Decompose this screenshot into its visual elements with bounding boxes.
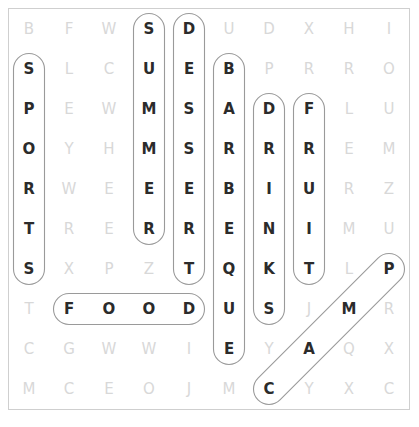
grid-cell[interactable]: U [369, 209, 409, 249]
grid-cell[interactable]: Y [249, 329, 289, 369]
grid-cell[interactable]: X [369, 329, 409, 369]
grid-cell[interactable]: W [49, 169, 89, 209]
grid-cell-found[interactable]: R [209, 129, 249, 169]
grid-cell-found[interactable]: O [89, 289, 129, 329]
grid-cell[interactable]: O [369, 49, 409, 89]
grid-cell-found[interactable]: E [209, 329, 249, 369]
grid-cell[interactable]: W [129, 329, 169, 369]
grid-cell-found[interactable]: T [289, 249, 329, 289]
grid-cell[interactable]: M [329, 209, 369, 249]
grid-cell[interactable]: H [329, 9, 369, 49]
grid-cell-found[interactable]: B [209, 49, 249, 89]
grid-cell-found[interactable]: Q [209, 249, 249, 289]
grid-cell-found[interactable]: R [169, 209, 209, 249]
grid-cell-found[interactable]: E [129, 169, 169, 209]
grid-cell-found[interactable]: S [9, 249, 49, 289]
grid-cell-found[interactable]: M [129, 129, 169, 169]
grid-cell-found[interactable]: E [169, 169, 209, 209]
grid-cell[interactable]: Y [49, 129, 89, 169]
grid-cell[interactable]: J [169, 369, 209, 409]
grid-cell-found[interactable]: R [9, 169, 49, 209]
grid-cell[interactable]: E [329, 129, 369, 169]
grid-cell[interactable]: E [89, 169, 129, 209]
grid-cell-found[interactable]: F [289, 89, 329, 129]
grid-cell-found[interactable]: C [249, 369, 289, 409]
grid-cell[interactable]: Y [289, 369, 329, 409]
grid-cell-found[interactable]: E [209, 209, 249, 249]
grid-cell[interactable]: R [329, 169, 369, 209]
grid-cell[interactable]: U [369, 89, 409, 129]
grid-cell-found[interactable]: R [129, 209, 169, 249]
grid-cell-found[interactable]: P [369, 249, 409, 289]
grid-cell-found[interactable]: E [169, 49, 209, 89]
grid-cell[interactable]: H [89, 129, 129, 169]
grid-cell[interactable]: M [369, 129, 409, 169]
grid-cell[interactable]: R [329, 49, 369, 89]
grid-cell[interactable]: C [9, 329, 49, 369]
grid-cell[interactable]: Q [329, 329, 369, 369]
grid-cell[interactable]: R [49, 209, 89, 249]
grid-cell[interactable]: X [289, 9, 329, 49]
grid-cell-found[interactable]: S [169, 89, 209, 129]
grid-cell[interactable]: B [9, 9, 49, 49]
grid-cell[interactable]: P [249, 49, 289, 89]
grid-cell-found[interactable]: S [249, 289, 289, 329]
grid-cell[interactable]: Z [369, 169, 409, 209]
grid-cell[interactable]: I [169, 329, 209, 369]
grid-cell-found[interactable]: I [249, 169, 289, 209]
grid-cell-found[interactable]: D [169, 289, 209, 329]
grid-cell[interactable]: X [329, 369, 369, 409]
grid-cell-found[interactable]: S [129, 9, 169, 49]
grid-cell-found[interactable]: K [249, 249, 289, 289]
grid-cell[interactable]: D [249, 9, 289, 49]
grid-cell[interactable]: L [329, 249, 369, 289]
grid-cell[interactable]: M [9, 369, 49, 409]
grid-cell-found[interactable]: I [289, 209, 329, 249]
grid-cell[interactable]: F [49, 9, 89, 49]
grid-cell-found[interactable]: T [169, 249, 209, 289]
grid-cell[interactable]: R [369, 289, 409, 329]
grid-cell[interactable]: P [89, 249, 129, 289]
grid-cell[interactable]: X [49, 249, 89, 289]
grid-cell-found[interactable]: O [9, 129, 49, 169]
grid-cell[interactable]: J [289, 289, 329, 329]
grid-cell-found[interactable]: N [249, 209, 289, 249]
grid-cell-found[interactable]: P [9, 89, 49, 129]
grid-cell[interactable]: E [89, 209, 129, 249]
grid-cell[interactable]: M [209, 369, 249, 409]
grid-cell-found[interactable]: D [169, 9, 209, 49]
grid-cell-found[interactable]: S [169, 129, 209, 169]
grid-cell[interactable]: T [9, 289, 49, 329]
grid-cell-found[interactable]: F [49, 289, 89, 329]
grid-cell[interactable]: L [329, 89, 369, 129]
grid-cell[interactable]: Z [129, 249, 169, 289]
grid-cell[interactable]: E [49, 89, 89, 129]
grid-cell-found[interactable]: D [249, 89, 289, 129]
grid-cell-found[interactable]: S [9, 49, 49, 89]
grid-cell-found[interactable]: T [9, 209, 49, 249]
grid-cell[interactable]: U [209, 9, 249, 49]
grid-cell[interactable]: G [49, 329, 89, 369]
grid-cell-found[interactable]: U [289, 169, 329, 209]
grid-cell-found[interactable]: R [249, 129, 289, 169]
grid-cell[interactable]: W [89, 89, 129, 129]
grid-cell-found[interactable]: A [209, 89, 249, 129]
grid-cell[interactable]: C [49, 369, 89, 409]
grid-cell[interactable]: C [89, 49, 129, 89]
grid-cell-found[interactable]: B [209, 169, 249, 209]
grid-cell-found[interactable]: M [129, 89, 169, 129]
grid-cell-found[interactable]: U [129, 49, 169, 89]
grid-cell[interactable]: R [289, 49, 329, 89]
grid-cell[interactable]: W [89, 9, 129, 49]
grid-cell-found[interactable]: M [329, 289, 369, 329]
grid-cell-found[interactable]: O [129, 289, 169, 329]
grid-cell-found[interactable]: A [289, 329, 329, 369]
grid-cell-found[interactable]: R [289, 129, 329, 169]
grid-cell-found[interactable]: U [209, 289, 249, 329]
grid-cell[interactable]: E [89, 369, 129, 409]
grid-cell[interactable]: O [129, 369, 169, 409]
grid-cell[interactable]: I [369, 9, 409, 49]
grid-cell[interactable]: W [89, 329, 129, 369]
grid-cell[interactable]: L [49, 49, 89, 89]
grid-cell[interactable]: C [369, 369, 409, 409]
